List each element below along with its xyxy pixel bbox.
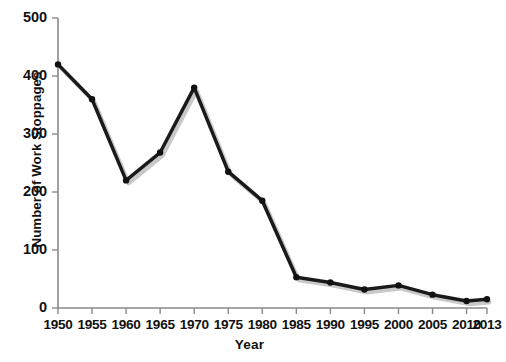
data-point-marker bbox=[429, 291, 435, 297]
data-point-marker bbox=[484, 296, 490, 302]
x-axis-ticks bbox=[58, 308, 487, 314]
data-point-marker bbox=[123, 177, 129, 183]
series-group bbox=[55, 61, 490, 304]
data-point-marker bbox=[361, 286, 367, 292]
data-point-marker bbox=[327, 279, 333, 285]
data-point-marker bbox=[463, 298, 469, 304]
series-line-shadow bbox=[61, 67, 490, 304]
data-point-marker bbox=[395, 282, 401, 288]
data-point-marker bbox=[293, 274, 299, 280]
y-tick-label: 500 bbox=[0, 9, 47, 25]
x-tick-label: 2013 bbox=[465, 317, 506, 332]
data-point-marker bbox=[225, 169, 231, 175]
axes-group bbox=[52, 18, 487, 314]
data-point-marker bbox=[191, 84, 197, 90]
y-axis-title: Number of Work Stoppages bbox=[29, 40, 44, 280]
series-line bbox=[58, 64, 487, 301]
series-markers bbox=[55, 61, 490, 304]
data-point-marker bbox=[157, 149, 163, 155]
x-axis-title: Year bbox=[0, 337, 499, 352]
data-point-marker bbox=[89, 96, 95, 102]
y-tick-label: 0 bbox=[0, 299, 47, 315]
data-point-marker bbox=[55, 61, 61, 67]
data-point-marker bbox=[259, 198, 265, 204]
